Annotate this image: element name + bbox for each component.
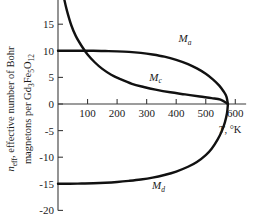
y-tick-label-5: 5 bbox=[49, 71, 55, 83]
data-curves bbox=[58, 0, 228, 184]
curve-label-Mc: Mc bbox=[148, 71, 162, 86]
y-tick-label-0: 0 bbox=[49, 98, 55, 110]
y-tick-label-10: 10 bbox=[43, 45, 55, 57]
x-tick-label-500: 500 bbox=[198, 107, 215, 119]
curve-label-Md: Md bbox=[151, 179, 165, 194]
y-tick-label--10: -10 bbox=[39, 151, 54, 163]
x-tick-label-200: 200 bbox=[109, 107, 126, 119]
plot-area: 100200300400500600151050-5-10-15-20 MaMc… bbox=[0, 0, 264, 218]
x-tick-label-100: 100 bbox=[79, 107, 96, 119]
x-axis-title-text: T, °K bbox=[219, 124, 242, 135]
x-tick-label-300: 300 bbox=[138, 107, 155, 119]
y-tick-label--15: -15 bbox=[39, 178, 54, 190]
x-tick-label-400: 400 bbox=[168, 107, 185, 119]
y-tick-label-15: 15 bbox=[43, 18, 55, 30]
curve-label-Ma: Ma bbox=[178, 32, 192, 47]
x-axis-title: T, °K bbox=[219, 124, 242, 135]
y-tick-label--5: -5 bbox=[45, 125, 55, 137]
x-tick-label-600: 600 bbox=[227, 107, 244, 119]
tick-labels: 100200300400500600151050-5-10-15-20 bbox=[39, 18, 244, 216]
y-tick-label--20: -20 bbox=[39, 204, 54, 216]
chart-figure: neff, effective number of Bohr magnetons… bbox=[0, 0, 264, 218]
